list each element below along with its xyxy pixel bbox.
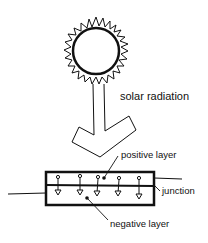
sun-disc [73, 28, 119, 74]
junction-line [46, 185, 154, 186]
right-wire [154, 178, 182, 179]
sun-icon [64, 17, 128, 84]
junction-leader [155, 186, 160, 191]
solar-radiation-label: solar radiation [120, 90, 189, 102]
negative-layer-label: negative layer [110, 218, 169, 229]
positive-layer-label: positive layer [121, 149, 176, 160]
solar-cell-diagram: solar radiation positive layer junction … [0, 0, 208, 243]
left-wire [8, 193, 46, 194]
junction-label: junction [161, 185, 195, 196]
